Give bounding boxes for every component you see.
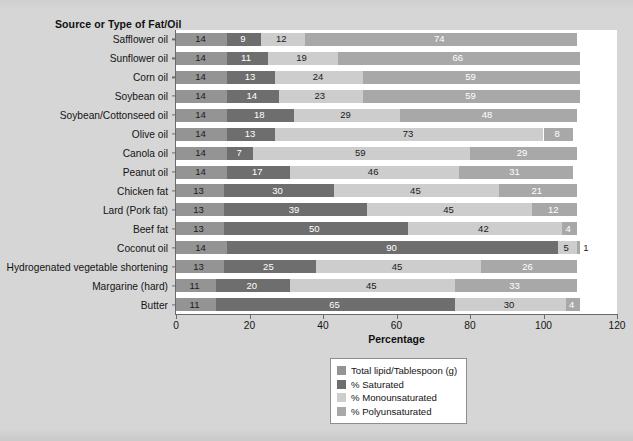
legend-swatch-icon <box>337 393 346 402</box>
y-axis-title: Source or Type of Fat/Oil <box>55 18 182 30</box>
x-axis-tick-label: 20 <box>244 320 255 331</box>
bar-value-label: 45 <box>410 186 421 196</box>
x-axis-tick-label: 40 <box>317 320 328 331</box>
bar-value-label: 14 <box>195 167 206 177</box>
bar-value-label: 14 <box>195 92 206 102</box>
bar-value-label: 31 <box>509 167 520 177</box>
bar-value-label: 48 <box>482 110 493 120</box>
bar-value-label: 11 <box>190 300 200 310</box>
legend-label: % Polyunsaturated <box>351 406 432 417</box>
x-axis-tick-mark <box>176 314 177 319</box>
bar-value-label: 20 <box>247 281 258 291</box>
bar-value-label: 19 <box>296 54 307 64</box>
bar-value-label: 7 <box>237 148 242 158</box>
bar-row: 13254526 <box>0 260 633 273</box>
bar-value-label: 42 <box>478 224 489 234</box>
bar-value-label: 26 <box>522 262 533 272</box>
bar-value-label: 29 <box>340 110 351 120</box>
bar-row: 14132459 <box>0 71 633 84</box>
bar-value-label: 21 <box>531 186 542 196</box>
bar-value-label: 59 <box>465 73 476 83</box>
bar-value-label: 65 <box>329 300 340 310</box>
bar-value-label: 17 <box>252 167 263 177</box>
bar-row: 1475929 <box>0 147 633 160</box>
bar-row: 13304521 <box>0 184 633 197</box>
x-axis-tick-label: 80 <box>464 320 475 331</box>
bar-value-label: 5 <box>564 243 569 253</box>
bar-value-label: 13 <box>193 186 204 196</box>
bar-value-label: 23 <box>315 92 326 102</box>
bar-value-label: 30 <box>504 300 515 310</box>
x-axis-tick-mark <box>323 314 324 319</box>
bar-value-label: 50 <box>309 224 320 234</box>
legend-item: Total lipid/Tablespoon (g) <box>337 364 457 378</box>
bar-row: 1413738 <box>0 128 633 141</box>
bar-row: 13394512 <box>0 203 633 216</box>
bar-value-label: 13 <box>193 205 204 215</box>
bar-value-label: 73 <box>403 129 414 139</box>
bar-value-label: 66 <box>452 54 463 64</box>
x-axis-tick-mark <box>250 314 251 319</box>
x-axis-tick-label: 0 <box>173 320 179 331</box>
bar-row: 149051 <box>0 241 633 254</box>
bar-value-label: 13 <box>245 129 256 139</box>
bar-row: 14142359 <box>0 90 633 103</box>
legend-label: Total lipid/Tablespoon (g) <box>351 365 457 376</box>
bar-value-label: 59 <box>465 92 476 102</box>
bar-value-label: 90 <box>386 243 397 253</box>
x-axis-tick-label: 120 <box>609 320 626 331</box>
bar-value-label: 25 <box>263 262 274 272</box>
bar-value-label: 18 <box>254 110 265 120</box>
legend-swatch-icon <box>337 380 346 389</box>
bar-value-label: 45 <box>392 262 403 272</box>
bar-value-label: 46 <box>368 167 379 177</box>
bar-row: 1350424 <box>0 222 633 235</box>
bar-value-label: 14 <box>195 54 206 64</box>
bar-value-label: 12 <box>548 205 559 215</box>
bar-row: 14174631 <box>0 166 633 179</box>
bar-value-label: 13 <box>193 262 204 272</box>
legend-label: % Monounsaturated <box>351 392 437 403</box>
legend-label: % Saturated <box>351 379 404 390</box>
legend-item: % Monounsaturated <box>337 391 457 405</box>
x-axis-tick-mark <box>617 314 618 319</box>
bar-value-label: 14 <box>195 110 206 120</box>
bar-value-label: 4 <box>565 224 570 234</box>
bar-value-label: 59 <box>355 148 366 158</box>
bar-value-label: 8 <box>554 129 559 139</box>
bar-value-label: 9 <box>240 35 245 45</box>
bar-value-label: 13 <box>193 224 204 234</box>
bar-row: 1491274 <box>0 33 633 46</box>
bar-segment <box>577 241 581 254</box>
x-axis-tick-mark <box>397 314 398 319</box>
x-axis-title: Percentage <box>176 333 617 345</box>
bar-value-label: 13 <box>245 73 256 83</box>
bar-row: 11204533 <box>0 279 633 292</box>
x-axis-tick-label: 60 <box>391 320 402 331</box>
bar-value-label: 39 <box>289 205 300 215</box>
bar-value-label: 4 <box>569 300 574 310</box>
bar-value-label: 14 <box>195 35 206 45</box>
bar-value-label: 24 <box>313 73 324 83</box>
chart-legend: Total lipid/Tablespoon (g)% Saturated% M… <box>330 358 467 424</box>
bar-row: 14182948 <box>0 109 633 122</box>
bar-value-label: 14 <box>195 243 206 253</box>
bar-value-label: 45 <box>443 205 454 215</box>
bar-value-label: 74 <box>434 35 445 45</box>
bar-value-label: 14 <box>195 73 206 83</box>
bar-value-label: 45 <box>366 281 377 291</box>
chart-figure: Source or Type of Fat/Oil Safflower oilS… <box>0 0 633 441</box>
x-axis-tick-label: 100 <box>535 320 552 331</box>
x-axis-tick-mark <box>544 314 545 319</box>
bar-value-label: 29 <box>517 148 528 158</box>
legend-item: % Polyunsaturated <box>337 405 457 419</box>
bar-value-label: 30 <box>272 186 283 196</box>
bar-value-label: 11 <box>190 281 200 291</box>
bar-value-label: 11 <box>241 54 251 64</box>
bar-row: 1165304 <box>0 298 633 311</box>
bar-row: 14111966 <box>0 52 633 65</box>
bar-value-label: 12 <box>276 35 287 45</box>
x-axis-tick-mark <box>470 314 471 319</box>
bar-value-label: 33 <box>509 281 520 291</box>
legend-swatch-icon <box>337 407 346 416</box>
